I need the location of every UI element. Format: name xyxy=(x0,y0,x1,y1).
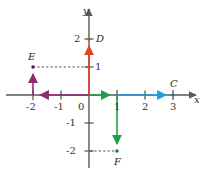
y-tick-label-2: 2 xyxy=(74,34,80,44)
x-tick-label-neg1: -1 xyxy=(54,102,64,112)
x-tick-label-1: 1 xyxy=(114,102,120,112)
vector-d-red xyxy=(87,37,90,95)
vector-e-purple xyxy=(31,65,89,95)
coordinate-plane-figure: y x -2 -1 0 1 2 3 2 1 -1 -2 D E C F xyxy=(0,0,203,177)
x-tick-label-0: 0 xyxy=(78,102,84,112)
y-tick-label-neg1: -1 xyxy=(66,118,76,128)
vector-c-blue xyxy=(117,93,175,96)
x-tick-label-2: 2 xyxy=(142,102,148,112)
x-tick-label-3: 3 xyxy=(170,102,176,112)
point-label-c: C xyxy=(170,79,178,89)
y-tick-label-1: 1 xyxy=(95,62,101,72)
y-tick-label-neg2: -2 xyxy=(66,146,76,156)
y-axis-label: y xyxy=(83,6,89,16)
dashed-guides xyxy=(33,67,117,151)
point-label-d: D xyxy=(96,34,104,44)
x-tick-label-neg2: -2 xyxy=(26,102,36,112)
x-axis-label: x xyxy=(194,95,200,105)
point-label-e: E xyxy=(28,52,35,62)
point-label-f: F xyxy=(114,157,121,167)
